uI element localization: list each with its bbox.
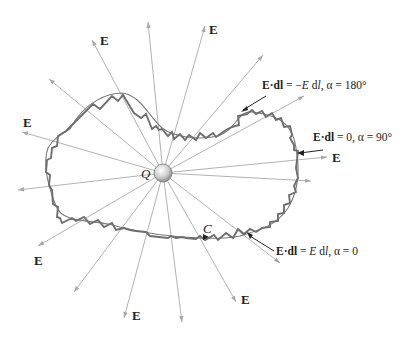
- field-arrowhead-icon: [298, 96, 304, 101]
- field-label-e: E: [100, 33, 109, 48]
- field-arrowhead-icon: [179, 316, 183, 322]
- point-charge-sphere: [154, 164, 172, 182]
- field-label-e: E: [241, 292, 250, 307]
- field-label-e: E: [34, 253, 43, 268]
- field-label-e: E: [23, 115, 32, 130]
- field-arrowhead-icon: [146, 22, 150, 28]
- field-arrowhead-icon: [92, 40, 97, 46]
- annotation-antiparallel: E·dl = −E dl, α = 180°: [262, 79, 367, 92]
- annotation-perpendicular: E·dl = 0, α = 90°: [313, 131, 393, 144]
- field-line: [163, 173, 311, 181]
- field-arrowhead-icon: [22, 132, 28, 136]
- field-arrowhead-icon: [201, 26, 205, 32]
- field-line: [148, 22, 163, 173]
- field-arrowhead-icon: [231, 296, 236, 302]
- field-line: [163, 26, 205, 173]
- field-label-e: E: [132, 308, 141, 323]
- field-line: [38, 173, 163, 246]
- field-line: [74, 173, 163, 292]
- field-label-e: E: [209, 22, 218, 37]
- field-arrowhead-icon: [38, 241, 44, 246]
- annotation-parallel: E·dl = E dl, α = 0: [276, 245, 358, 258]
- field-line: [124, 173, 163, 318]
- curve-label-c: C: [203, 221, 212, 236]
- field-label-e: E: [332, 150, 341, 165]
- step-approximation-path: [46, 95, 298, 240]
- field-arrowhead-icon: [305, 178, 311, 182]
- field-arrowhead-icon: [18, 187, 24, 191]
- field-line: [49, 79, 163, 173]
- electric-field-lines: [18, 22, 327, 322]
- field-line: [163, 173, 182, 322]
- field-arrowhead-icon: [274, 258, 280, 263]
- pointer-arrow-icon: [241, 106, 248, 112]
- line-integral-diagram: Q C E E E E E E E E·dl = −E dl, α = 180°…: [0, 0, 414, 337]
- field-arrowhead-icon: [74, 286, 79, 292]
- charge-label-q: Q: [141, 166, 151, 181]
- field-line: [163, 173, 280, 263]
- field-arrowhead-icon: [123, 312, 127, 318]
- field-arrowhead-icon: [321, 155, 327, 159]
